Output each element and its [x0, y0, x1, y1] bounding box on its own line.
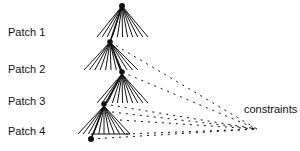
patch-hierarchy-diagram — [0, 0, 300, 151]
patch-1-fan — [97, 6, 148, 37]
patch-3-fan — [97, 74, 148, 103]
patch-4-fan — [78, 106, 130, 134]
root-node — [119, 3, 125, 9]
